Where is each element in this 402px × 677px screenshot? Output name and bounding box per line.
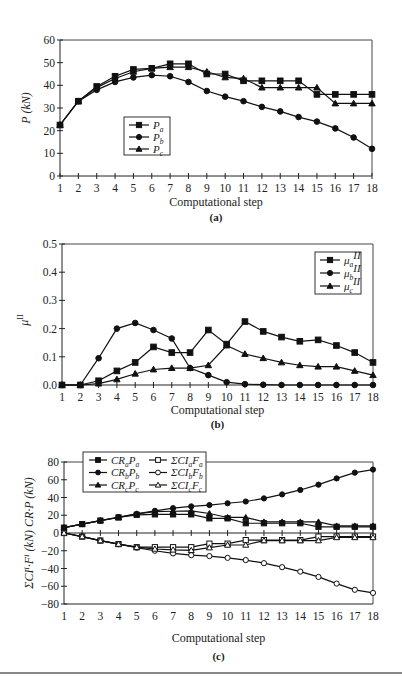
square-marker-icon [136, 122, 141, 127]
x-tick-label: 1 [59, 391, 65, 403]
circle-marker-icon [132, 320, 138, 326]
circle-marker-icon [296, 114, 302, 120]
circle-marker-icon [149, 72, 155, 78]
square-marker-icon [314, 92, 320, 98]
x-tick-label: 2 [77, 391, 83, 403]
circle-marker-icon [136, 134, 141, 139]
x-tick-label: 6 [151, 391, 157, 403]
circle-marker-icon [96, 470, 101, 475]
x-tick-label: 9 [204, 182, 210, 194]
x-tick-label: 14 [294, 391, 306, 403]
legend: CRaPaCRbPbCRcPcΣCIaFaΣCIbFbΣCIcFc [83, 452, 206, 494]
series-line [64, 533, 373, 547]
y-tick-label: 10 [44, 147, 56, 159]
circle-marker-icon [334, 581, 339, 586]
circle-marker-icon [327, 270, 332, 275]
circle-marker-icon [279, 382, 285, 388]
x-tick-label: 10 [219, 182, 231, 194]
square-marker-icon [332, 92, 338, 98]
x-tick-label: 16 [331, 391, 343, 403]
square-marker-icon [327, 257, 332, 262]
x-tick-label: 13 [276, 610, 288, 622]
circle-marker-icon [114, 326, 120, 332]
series-line [64, 514, 373, 527]
circle-marker-icon [186, 79, 192, 85]
x-tick-label: 8 [188, 610, 194, 622]
circle-marker-icon [370, 382, 376, 388]
circle-marker-icon [332, 126, 338, 132]
figure-caption: (a) [210, 211, 223, 224]
bottom-rule [0, 672, 402, 674]
x-tick-label: 7 [167, 182, 173, 194]
x-tick-label: 8 [187, 391, 193, 403]
figure-caption: (c) [212, 650, 225, 663]
series-CR_aP_a [61, 512, 375, 531]
series-μ_b^II [59, 320, 376, 388]
square-marker-icon [260, 329, 266, 335]
y-axis-title: P (kN) [19, 92, 33, 124]
y-tick-label: 60 [48, 474, 60, 486]
x-tick-label: 4 [116, 610, 122, 622]
circle-marker-icon [334, 476, 339, 481]
x-axis-title: Computational step [172, 631, 266, 645]
x-tick-label: 6 [149, 182, 155, 194]
series-μ_a^II [59, 319, 376, 388]
figure-panel: 1234567891011121314151617180102030405060… [0, 0, 402, 677]
x-tick-label: 17 [349, 610, 361, 622]
circle-marker-icon [96, 355, 102, 361]
x-tick-label: 10 [221, 391, 233, 403]
y-tick-label: 0.0 [43, 379, 58, 391]
circle-marker-icon [167, 73, 173, 79]
circle-marker-icon [224, 379, 230, 385]
circle-marker-icon [316, 482, 321, 487]
circle-marker-icon [260, 382, 266, 388]
x-tick-label: 9 [205, 391, 211, 403]
square-marker-icon [334, 343, 340, 349]
y-tick-label: 20 [48, 509, 60, 521]
y-axis-title: μII [16, 314, 31, 327]
figure-caption: (b) [211, 418, 225, 431]
circle-marker-icon [370, 590, 375, 595]
circle-marker-icon [351, 135, 357, 141]
x-tick-label: 6 [152, 610, 158, 622]
y-tick-label: 40 [44, 79, 56, 91]
x-tick-label: 17 [348, 182, 360, 194]
square-marker-icon [132, 360, 138, 366]
circle-marker-icon [280, 492, 285, 497]
series-line [60, 75, 372, 149]
x-tick-label: 11 [240, 610, 251, 622]
x-tick-label: 18 [367, 610, 379, 622]
circle-marker-icon [315, 382, 321, 388]
circle-marker-icon [261, 496, 266, 501]
series-line [64, 533, 373, 550]
circle-marker-icon [298, 569, 303, 574]
x-tick-label: 8 [186, 182, 192, 194]
square-marker-icon [243, 521, 248, 526]
circle-marker-icon [297, 382, 303, 388]
x-tick-label: 13 [274, 182, 286, 194]
y-tick-label: 80 [48, 456, 60, 468]
x-tick-label: 15 [312, 391, 324, 403]
circle-marker-icon [169, 336, 175, 342]
square-marker-icon [315, 337, 321, 343]
circle-marker-icon [352, 470, 357, 475]
x-tick-label: 14 [293, 182, 305, 194]
circle-marker-icon [225, 501, 230, 506]
circle-marker-icon [189, 553, 194, 558]
y-tick-label: 50 [44, 57, 56, 69]
circle-marker-icon [352, 382, 358, 388]
series-line [62, 322, 373, 385]
circle-marker-icon [277, 109, 283, 115]
x-tick-label: 18 [367, 391, 379, 403]
circle-marker-icon [243, 557, 248, 562]
square-marker-icon [296, 78, 302, 84]
x-tick-label: 15 [313, 610, 325, 622]
circle-marker-icon [259, 104, 265, 110]
x-tick-label: 4 [112, 182, 118, 194]
y-tick-label: 0 [53, 527, 59, 539]
y-tick-label: 0.5 [43, 238, 58, 250]
circle-marker-icon [280, 565, 285, 570]
x-tick-label: 3 [94, 182, 100, 194]
x-tick-label: 3 [96, 391, 102, 403]
circle-marker-icon [225, 555, 230, 560]
